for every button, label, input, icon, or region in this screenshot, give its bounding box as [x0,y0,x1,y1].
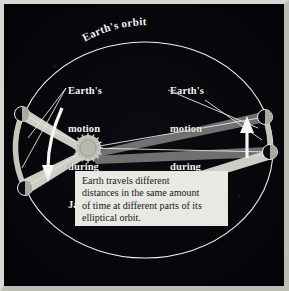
july-label-line-2: motion [170,123,204,136]
earth-marker-january-end [18,181,33,196]
january-label-line-2: motion [68,123,106,136]
orbit-title-text: Earth's orbit [80,15,147,44]
earth-marker-july-end [258,110,273,125]
diagram-canvas: Earth's orbit [0,0,289,291]
january-motion-arc [15,114,25,188]
earth-marker-january-start [15,107,30,122]
orbit-diagram-figure: Earth's orbit Earth's motion during Janu… [0,0,289,291]
orbit-title: Earth's orbit [80,15,147,44]
caption-line-2: distances in the same amount [82,187,225,199]
caption-text: Earth travels different distances in the… [82,175,225,224]
caption-line-4: elliptical orbit. [82,212,225,224]
july-label-line-1: Earth's [170,85,204,98]
january-label-line-1: Earth's [68,85,106,98]
caption-line-3: of time at different parts of its [82,200,225,212]
caption-box: Earth travels different distances in the… [75,171,228,226]
caption-line-1: Earth travels different [82,175,225,187]
earth-marker-july-start [263,145,278,160]
